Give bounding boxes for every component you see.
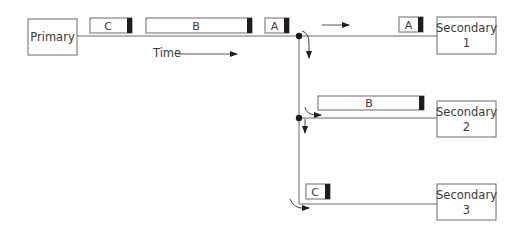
svg-text:A: A [271,20,279,33]
packet-c-primary: C [90,18,132,33]
secondary2-label: Secondary [436,105,497,119]
svg-text:B: B [365,97,373,110]
secondary1-node: Secondary 1 [436,17,497,54]
secondary3-node: Secondary 3 [436,184,497,220]
primary-label: Primary [30,30,75,44]
svg-text:C: C [311,186,319,199]
svg-text:A: A [405,19,413,32]
svg-text:B: B [192,20,200,33]
junction-dot-top [296,33,302,39]
packet-a-secondary1: A [399,17,423,32]
replication-diagram: Primary Secondary 1 Secondary 2 Secondar… [0,0,525,235]
junction-dot-middle [296,115,302,121]
packet-b-secondary2: B [318,96,424,110]
secondary1-label: Secondary [436,21,497,35]
curved-arrow-down-icon [302,31,309,58]
secondary3-label: Secondary [436,188,497,202]
secondary3-number: 3 [463,203,470,217]
primary-node: Primary [28,19,77,55]
packet-b-primary: B [146,18,252,33]
secondary2-number: 2 [463,120,470,134]
secondary2-node: Secondary 2 [436,101,497,137]
time-label: Time [152,46,181,60]
secondary1-number: 1 [463,36,470,50]
packet-c-secondary3: C [306,184,330,199]
packet-a-primary: A [265,18,289,33]
svg-text:C: C [104,20,112,33]
